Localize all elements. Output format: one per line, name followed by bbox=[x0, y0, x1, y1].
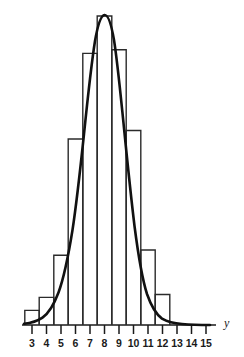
x-axis-tick-labels: 3 4 5 6 7 8 9 10 11 12 13 14 15 bbox=[29, 337, 212, 349]
tick-label: 3 bbox=[29, 337, 35, 349]
tick-label: 8 bbox=[102, 337, 108, 349]
tick-label: 5 bbox=[58, 337, 64, 349]
tick-label: 4 bbox=[44, 337, 50, 349]
tick-label: 12 bbox=[157, 337, 169, 349]
tick-label: 11 bbox=[142, 337, 153, 349]
tick-label: 13 bbox=[171, 337, 183, 349]
x-axis-ticks bbox=[32, 325, 206, 334]
histogram-plot: 3 4 5 6 7 8 9 10 11 12 13 14 15 y bbox=[0, 0, 244, 357]
tick-label: 7 bbox=[87, 337, 93, 349]
bar-7 bbox=[83, 53, 97, 325]
bar-8 bbox=[97, 16, 112, 325]
tick-label: 6 bbox=[73, 337, 79, 349]
tick-label: 10 bbox=[128, 337, 140, 349]
tick-label: 15 bbox=[200, 337, 212, 349]
normal-curve bbox=[24, 15, 210, 325]
tick-label: 9 bbox=[116, 337, 122, 349]
histogram-figure: 3 4 5 6 7 8 9 10 11 12 13 14 15 y bbox=[0, 0, 244, 357]
tick-label: 14 bbox=[186, 337, 198, 349]
x-axis-label: y bbox=[223, 316, 230, 330]
bar-4 bbox=[39, 297, 54, 325]
bar-11 bbox=[141, 250, 155, 325]
histogram-bars bbox=[25, 16, 170, 325]
